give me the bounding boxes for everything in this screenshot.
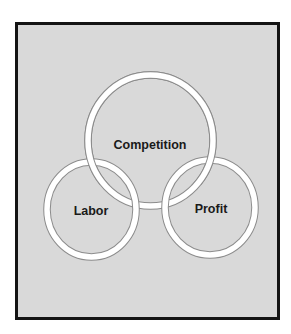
label-labor: Labor [74,204,109,218]
rings-diagram: Competition Labor Profit [0,0,291,334]
label-profit: Profit [195,202,228,216]
label-competition: Competition [114,138,187,152]
